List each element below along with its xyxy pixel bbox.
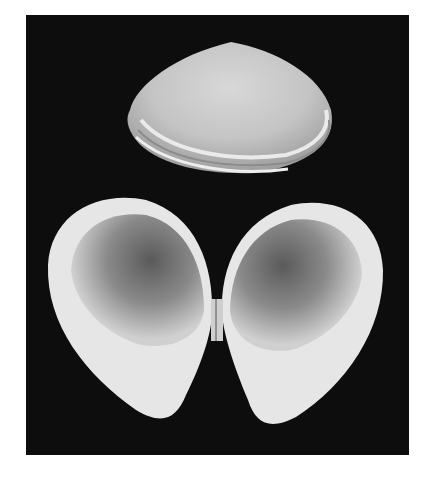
right-open-valve bbox=[222, 203, 383, 424]
hinge bbox=[211, 299, 223, 341]
left-open-valve bbox=[48, 198, 212, 419]
closed-shell bbox=[128, 42, 332, 173]
shell-photograph bbox=[26, 15, 409, 455]
